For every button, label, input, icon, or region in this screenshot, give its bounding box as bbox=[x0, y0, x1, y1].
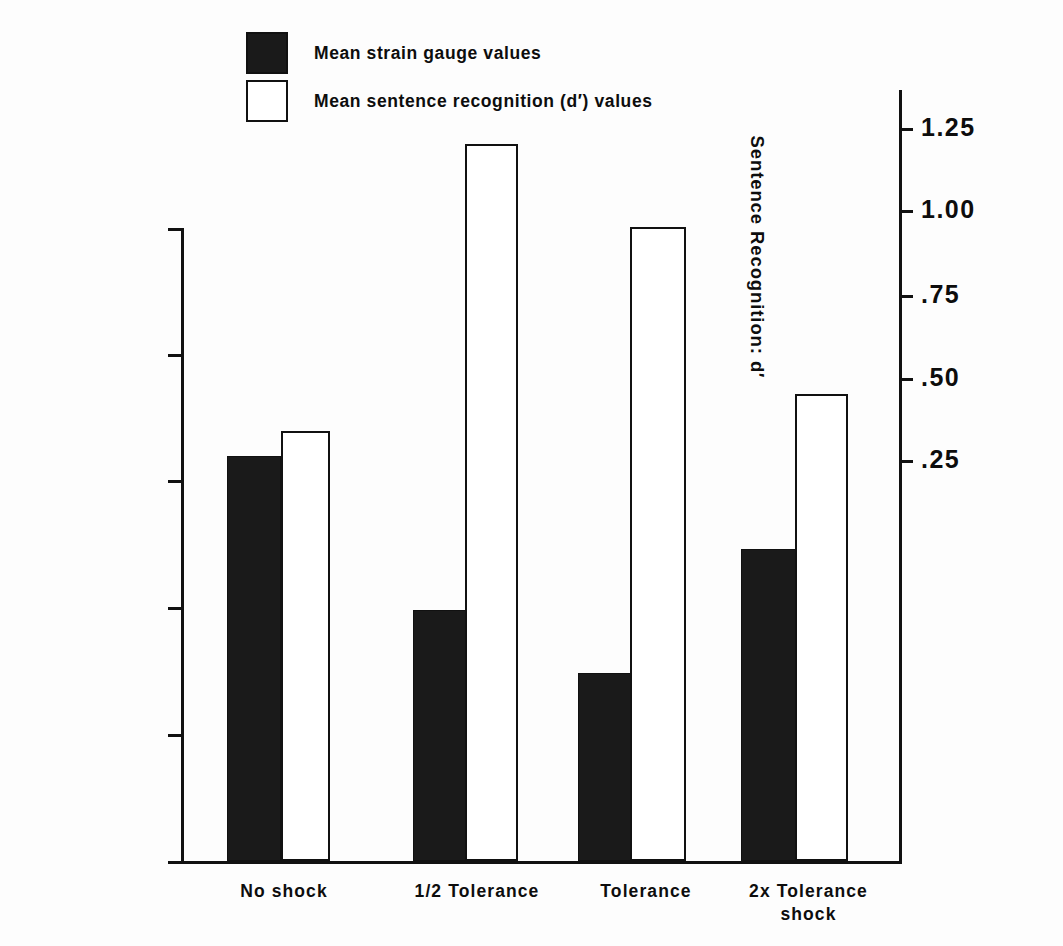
plot-area: 0 5 10 15 20 25 .25 .50 .75 1.00 1.25 No… bbox=[181, 228, 902, 864]
left-tick-5 bbox=[168, 734, 181, 737]
category-label-tolerance: Tolerance bbox=[556, 880, 736, 903]
chart-legend: Mean strain gauge values Mean sentence r… bbox=[246, 33, 766, 129]
bar-sentence-half-tolerance bbox=[465, 144, 518, 861]
right-ticklabel-075: .75 bbox=[921, 280, 1031, 309]
bar-sentence-tolerance bbox=[630, 227, 686, 861]
right-axis-line bbox=[899, 90, 902, 864]
right-tick-075 bbox=[899, 295, 913, 298]
left-tick-15 bbox=[168, 480, 181, 483]
left-axis-line bbox=[181, 228, 184, 864]
right-tick-125 bbox=[899, 128, 913, 131]
right-ticklabel-025: .25 bbox=[921, 445, 1031, 474]
legend-item-sentence-recognition: Mean sentence recognition (d′) values bbox=[246, 81, 766, 121]
legend-label-strain-gauge: Mean strain gauge values bbox=[314, 43, 541, 64]
bar-sentence-2x-tolerance bbox=[795, 394, 848, 861]
legend-swatch-filled-icon bbox=[246, 32, 288, 74]
bottom-axis-line bbox=[181, 861, 902, 864]
legend-item-strain-gauge: Mean strain gauge values bbox=[246, 33, 766, 73]
bar-strain-2x-tolerance bbox=[741, 549, 797, 861]
category-label-2x-tolerance: 2x Tolerance shock bbox=[711, 880, 906, 926]
right-ticklabel-050: .50 bbox=[921, 363, 1031, 392]
category-label-no-shock: No shock bbox=[199, 880, 369, 903]
left-tick-10 bbox=[168, 607, 181, 610]
right-tick-100 bbox=[899, 210, 913, 213]
legend-label-sentence-recognition: Mean sentence recognition (d′) values bbox=[314, 91, 653, 112]
right-tick-050 bbox=[899, 378, 913, 381]
left-tick-20 bbox=[168, 354, 181, 357]
chart-figure: Mean strain gauge values Mean sentence r… bbox=[0, 0, 1063, 946]
bar-strain-half-tolerance bbox=[413, 610, 468, 861]
bar-sentence-no-shock bbox=[281, 431, 330, 861]
bar-strain-tolerance bbox=[578, 673, 633, 861]
right-tick-025 bbox=[899, 460, 913, 463]
legend-swatch-hollow-icon bbox=[246, 80, 288, 122]
right-ticklabel-125: 1.25 bbox=[921, 113, 1031, 142]
bar-strain-no-shock bbox=[227, 456, 281, 861]
right-ticklabel-100: 1.00 bbox=[921, 195, 1031, 224]
left-tick-0 bbox=[168, 861, 181, 864]
category-label-half-tolerance: 1/2 Tolerance bbox=[377, 880, 577, 903]
left-tick-25 bbox=[168, 228, 181, 231]
